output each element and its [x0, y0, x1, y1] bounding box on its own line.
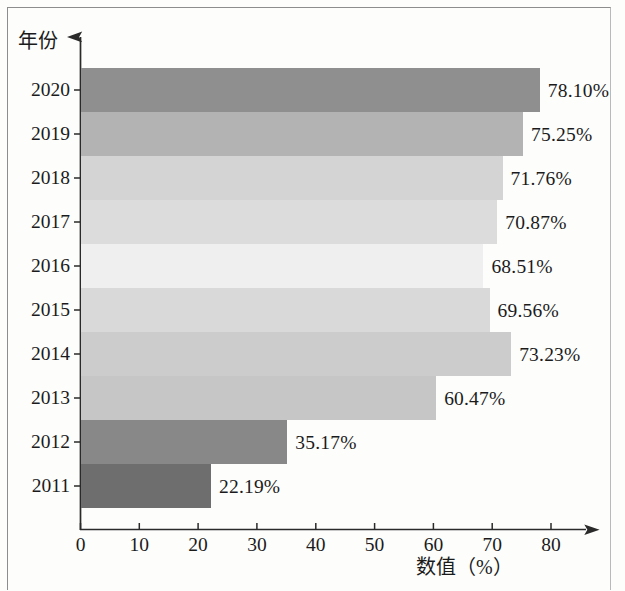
bar-2016 [81, 244, 484, 288]
y-tick-2013: 2013 [0, 387, 70, 409]
bar-value-2011: 22.19% [219, 476, 280, 498]
chart-figure: 78.10% 75.25% 71.76% 70.87% 68.51% 69.56… [0, 0, 625, 591]
bar-value-2017: 70.87% [505, 212, 566, 234]
bar-value-2012: 35.17% [295, 432, 356, 454]
y-tick-2019: 2019 [0, 123, 70, 145]
bar-value-2014: 73.23% [519, 344, 580, 366]
plot-area: 78.10% 75.25% 71.76% 70.87% 68.51% 69.56… [0, 0, 625, 591]
bar-2017 [81, 200, 498, 244]
bar-2018 [81, 156, 503, 200]
bar-value-2013: 60.47% [444, 388, 505, 410]
bar-value-2018: 71.76% [511, 168, 572, 190]
bar-2014 [81, 332, 512, 376]
y-tick-2016: 2016 [0, 255, 70, 277]
x-tick-40: 40 [296, 534, 336, 556]
bar-2011 [81, 464, 212, 508]
y-tick-2014: 2014 [0, 343, 70, 365]
y-tick-2017: 2017 [0, 211, 70, 233]
y-axis-title: 年份 [18, 25, 58, 54]
bar-2013 [81, 376, 437, 420]
x-tick-50: 50 [355, 534, 395, 556]
y-tick-2020: 2020 [0, 79, 70, 101]
bar-value-2015: 69.56% [498, 300, 559, 322]
bar-2019 [81, 112, 524, 156]
y-tick-2015: 2015 [0, 299, 70, 321]
bar-value-2019: 75.25% [531, 124, 592, 146]
y-tick-2018: 2018 [0, 167, 70, 189]
bar-value-2016: 68.51% [491, 256, 552, 278]
y-tick-2011: 2011 [0, 475, 70, 497]
bar-2015 [81, 288, 490, 332]
bar-2020 [81, 68, 540, 112]
x-tick-20: 20 [178, 534, 218, 556]
bar-value-2020: 78.10% [548, 80, 609, 102]
x-tick-80: 80 [531, 534, 571, 556]
y-tick-2012: 2012 [0, 431, 70, 453]
x-tick-30: 30 [237, 534, 277, 556]
bar-2012 [81, 420, 288, 464]
x-tick-0: 0 [61, 534, 101, 556]
x-tick-10: 10 [119, 534, 159, 556]
x-axis-title: 数值（%） [416, 551, 513, 580]
